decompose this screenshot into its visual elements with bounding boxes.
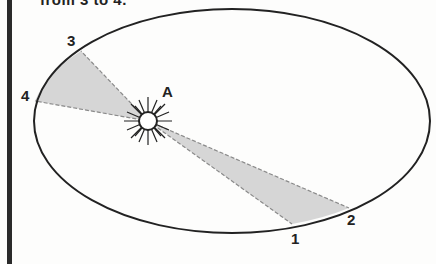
point-label-3: 3: [67, 33, 75, 48]
swept-area-1-2: [148, 121, 349, 224]
diagram-canvas: from 3 to 4. A 1 2: [0, 0, 436, 264]
orbit-ellipse: [34, 9, 430, 233]
point-label-4: 4: [21, 88, 29, 103]
point-label-1: 1: [291, 231, 299, 246]
sun-icon: [124, 97, 172, 145]
focus-label-a: A: [162, 84, 173, 99]
orbit-diagram: [0, 0, 436, 264]
point-label-2: 2: [347, 212, 355, 227]
